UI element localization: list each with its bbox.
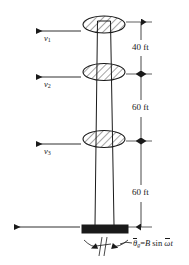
velocity-label-v1: v1 [44,34,51,43]
velocity-label-v3: v3 [44,147,51,156]
theta-overbar [133,238,137,239]
foundation-block [82,225,128,233]
theta-overbar-group: θ [133,239,137,248]
column-right [111,21,115,225]
dimension-label-top: 40 ft [131,43,150,52]
floor-3-ellipse [83,131,125,148]
floor-slab-3 [83,131,125,148]
floor-slab-2 [83,64,125,81]
rotation-arrow-left [84,240,97,246]
time-symbol-t: t [170,238,172,248]
velocity-subscript-v2: 2 [48,83,51,89]
amplitude-symbol-B: B [145,238,150,248]
velocity-arrows [14,31,81,227]
floor-slab-1 [83,16,125,33]
theta-symbol: θ [133,238,137,248]
omega-overbar [165,238,170,239]
frame-columns [95,21,114,225]
dimension-label-bottom: 60 ft [131,188,150,197]
floor-1-ellipse [83,16,125,33]
omega-overbar-group: ω [164,239,170,248]
ground-rotation-indicator [84,237,132,256]
rotation-cross-line [96,244,111,246]
column-left [95,21,98,225]
equation-leader-line [120,242,132,244]
floor-2-ellipse [83,64,125,81]
omega-symbol: ω [164,238,170,248]
dimension-label-middle: 60 ft [131,103,150,112]
foundation-rect [82,225,128,233]
building-frame-diagram [0,0,189,265]
velocity-subscript-v3: 3 [48,150,51,156]
velocity-subscript-v1: 1 [48,37,51,43]
ground-motion-equation: θg=B sin ωt [132,239,174,248]
rotation-arrow-right [112,240,128,246]
velocity-label-v2: v2 [44,80,51,89]
sin-function: sin [152,238,162,248]
rotation-axis-line-left [99,237,102,256]
figure-container: v1 v2 v3 40 ft 60 ft 60 ft θg=B sin ωt [0,0,189,265]
rotation-axis-line-right [104,237,107,256]
